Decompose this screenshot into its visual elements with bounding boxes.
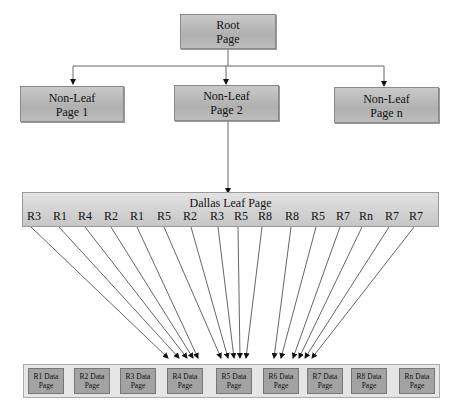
leaf-ref: R5 bbox=[311, 209, 325, 224]
data-page-sublabel: Page bbox=[274, 381, 289, 390]
leaf-ref: R7 bbox=[385, 209, 399, 224]
data-page-label: R6 Data bbox=[269, 372, 294, 381]
data-page-rn: Rn DataPage bbox=[399, 368, 435, 394]
leaf-ref: R3 bbox=[27, 209, 41, 224]
data-pages-container: R1 DataPage R2 DataPage R3 DataPage R4 D… bbox=[23, 364, 440, 398]
root-page-line1: Root bbox=[181, 18, 275, 32]
data-page-r3: R3 DataPage bbox=[120, 368, 156, 394]
data-page-sublabel: Page bbox=[362, 381, 377, 390]
non-leaf-page-1-line1: Non-Leaf bbox=[21, 91, 123, 105]
data-page-sublabel: Page bbox=[131, 381, 146, 390]
leaf-ref: R1 bbox=[53, 209, 67, 224]
leaf-ref: R5 bbox=[234, 209, 248, 224]
data-page-label: R7 Data bbox=[313, 372, 338, 381]
leaf-ref: R7 bbox=[336, 209, 350, 224]
data-page-label: R1 Data bbox=[34, 372, 59, 381]
data-page-label: R5 Data bbox=[222, 372, 247, 381]
root-page-line2: Page bbox=[181, 32, 275, 46]
data-page-label: R8 Data bbox=[357, 372, 382, 381]
data-page-sublabel: Page bbox=[318, 381, 333, 390]
data-page-sublabel: Page bbox=[178, 381, 193, 390]
leaf-ref: Rn bbox=[359, 209, 373, 224]
non-leaf-page-2: Non-Leaf Page 2 bbox=[174, 85, 279, 121]
data-page-sublabel: Page bbox=[410, 381, 425, 390]
non-leaf-page-1: Non-Leaf Page 1 bbox=[20, 86, 124, 122]
dallas-leaf-page: Dallas Leaf Page R3 R1 R4 R2 R1 R5 R2 R3… bbox=[22, 192, 439, 227]
non-leaf-page-2-line2: Page 2 bbox=[175, 103, 278, 117]
leaf-ref: R2 bbox=[104, 209, 118, 224]
data-page-label: R2 Data bbox=[80, 372, 105, 381]
data-page-r8: R8 DataPage bbox=[351, 368, 387, 394]
non-leaf-page-1-line2: Page 1 bbox=[21, 105, 123, 119]
data-page-label: R4 Data bbox=[173, 372, 198, 381]
leaf-ref: R7 bbox=[409, 209, 423, 224]
leaf-ref: R4 bbox=[78, 209, 92, 224]
data-page-label: R3 Data bbox=[126, 372, 151, 381]
root-page: Root Page bbox=[180, 14, 276, 49]
data-page-r2: R2 DataPage bbox=[74, 368, 110, 394]
data-page-r7: R7 DataPage bbox=[307, 368, 343, 394]
data-page-r5: R5 DataPage bbox=[216, 368, 252, 394]
non-leaf-page-n-line2: Page n bbox=[335, 106, 438, 120]
leaf-ref: R1 bbox=[130, 209, 144, 224]
data-page-r6: R6 DataPage bbox=[263, 368, 299, 394]
leaf-ref: R2 bbox=[183, 209, 197, 224]
data-page-sublabel: Page bbox=[39, 381, 54, 390]
leaf-ref: R5 bbox=[157, 209, 171, 224]
non-leaf-page-n: Non-Leaf Page n bbox=[334, 87, 439, 123]
data-page-r1: R1 DataPage bbox=[28, 368, 64, 394]
leaf-ref: R8 bbox=[285, 209, 299, 224]
leaf-ref: R8 bbox=[258, 209, 272, 224]
data-page-r4: R4 DataPage bbox=[167, 368, 203, 394]
leaf-ref: R3 bbox=[210, 209, 224, 224]
non-leaf-page-n-line1: Non-Leaf bbox=[335, 92, 438, 106]
non-leaf-page-2-line1: Non-Leaf bbox=[175, 89, 278, 103]
data-page-sublabel: Page bbox=[85, 381, 100, 390]
data-page-label: Rn Data bbox=[405, 372, 430, 381]
data-page-sublabel: Page bbox=[227, 381, 242, 390]
